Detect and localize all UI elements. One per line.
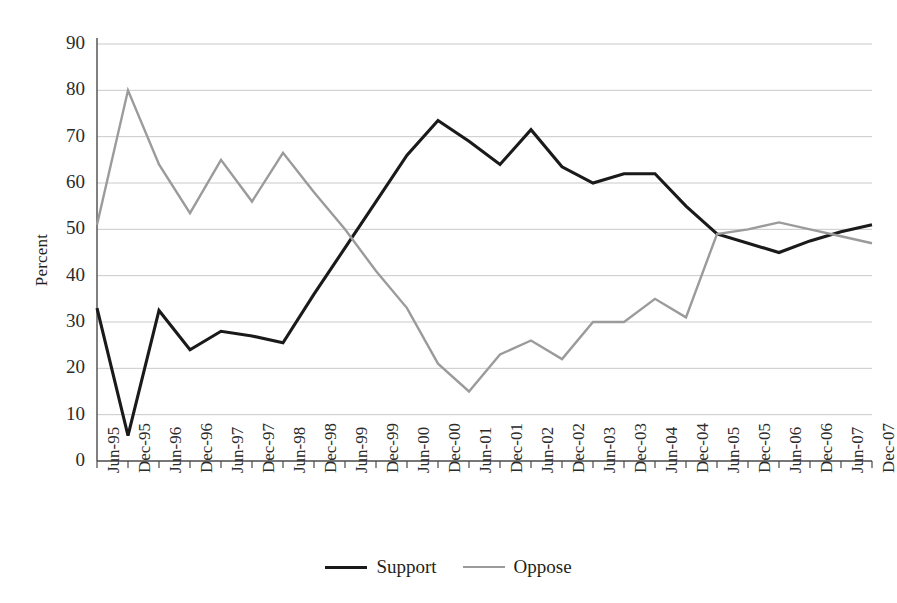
- x-tick-label: Jun-95: [104, 427, 124, 473]
- x-tick-label: Dec-01: [507, 423, 527, 473]
- x-tick-label: Dec-98: [321, 423, 341, 473]
- x-tick-label: Jun-04: [662, 427, 682, 473]
- x-tick-label: Dec-99: [383, 423, 403, 473]
- x-tick-label: Dec-00: [445, 423, 465, 473]
- y-tick-label: 0: [45, 449, 85, 471]
- line-chart: Percent 0102030405060708090 Jun-95Dec-95…: [0, 0, 897, 603]
- legend-label: Oppose: [514, 556, 572, 578]
- y-tick-label: 90: [45, 32, 85, 54]
- x-tick-label: Jun-97: [228, 427, 248, 473]
- legend-swatch-oppose-icon: [463, 566, 505, 568]
- x-tick-label: Jun-07: [848, 427, 868, 473]
- x-tick-label: Dec-05: [755, 423, 775, 473]
- legend-item-support: Support: [325, 556, 436, 578]
- y-tick-label: 10: [45, 403, 85, 425]
- x-tick-label: Jun-03: [600, 427, 620, 473]
- y-tick-label: 20: [45, 356, 85, 378]
- legend-swatch-support-icon: [325, 566, 367, 569]
- y-tick-label: 50: [45, 217, 85, 239]
- legend-label: Support: [376, 556, 436, 578]
- x-tick-label: Dec-97: [259, 423, 279, 473]
- x-tick-label: Dec-95: [135, 423, 155, 473]
- y-tick-label: 80: [45, 78, 85, 100]
- chart-legend: SupportOppose: [0, 556, 897, 578]
- series-line-support: [97, 120, 872, 435]
- x-tick-label: Jun-98: [290, 427, 310, 473]
- series-line-oppose: [97, 90, 872, 391]
- x-tick-label: Jun-01: [476, 427, 496, 473]
- x-tick-label: Jun-06: [786, 427, 806, 473]
- y-tick-label: 70: [45, 125, 85, 147]
- x-tick-label: Dec-03: [631, 423, 651, 473]
- x-tick-label: Jun-96: [166, 427, 186, 473]
- y-tick-label: 60: [45, 171, 85, 193]
- x-tick-label: Jun-00: [414, 427, 434, 473]
- x-tick-label: Jun-99: [352, 427, 372, 473]
- x-tick-label: Dec-96: [197, 423, 217, 473]
- chart-plot-area: [0, 0, 897, 603]
- x-tick-label: Dec-04: [693, 423, 713, 473]
- x-tick-label: Jun-02: [538, 427, 558, 473]
- x-tick-label: Dec-02: [569, 423, 589, 473]
- y-tick-label: 30: [45, 310, 85, 332]
- x-tick-label: Jun-05: [724, 427, 744, 473]
- legend-item-oppose: Oppose: [463, 556, 572, 578]
- x-tick-label: Dec-06: [817, 423, 837, 473]
- x-tick-label: Dec-07: [879, 423, 897, 473]
- y-tick-label: 40: [45, 264, 85, 286]
